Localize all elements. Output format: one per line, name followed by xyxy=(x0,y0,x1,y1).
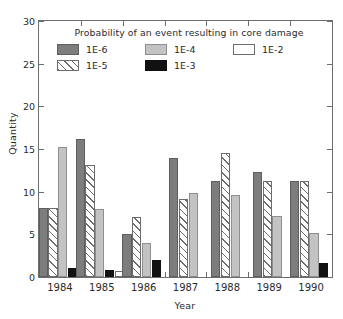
bar-1E4-1986 xyxy=(142,243,151,277)
x-tick-label: 1984 xyxy=(47,282,72,293)
y-tick-mark xyxy=(327,106,332,107)
y-tick-label: 20 xyxy=(23,101,35,112)
legend-label-1e4: 1E-4 xyxy=(174,44,196,55)
y-tick-label: 15 xyxy=(23,144,35,155)
legend-label-1e3: 1E-3 xyxy=(174,60,196,71)
legend-swatch-1e3 xyxy=(145,60,167,71)
bar-1E4-1989 xyxy=(272,216,281,277)
bar-1E6-1984 xyxy=(39,208,48,277)
y-tick-label: 10 xyxy=(23,186,35,197)
x-tick-mark xyxy=(165,272,166,277)
bar-1E5-1985 xyxy=(85,165,94,277)
bar-1E3-1986 xyxy=(152,260,161,277)
legend-swatch-1e2 xyxy=(233,44,255,55)
bar-1E4-1990 xyxy=(309,233,318,277)
legend-item-1e5: 1E-5 xyxy=(57,60,145,71)
legend-label-1e2: 1E-2 xyxy=(262,44,284,55)
x-tick-label: 1988 xyxy=(215,282,240,293)
bar-1E6-1988 xyxy=(211,181,220,277)
bar-1E5-1988 xyxy=(221,153,230,277)
bar-1E6-1989 xyxy=(253,172,262,277)
legend-swatch-1e4 xyxy=(145,44,167,55)
y-tick-mark xyxy=(39,21,44,22)
y-tick-label: 0 xyxy=(29,272,35,283)
legend-row-top: 1E-6 1E-4 1E-2 xyxy=(57,44,321,55)
x-tick-mark xyxy=(206,21,207,26)
bar-1E4-1988 xyxy=(231,195,240,277)
plot-area: 051015202530 198419851986198719881989199… xyxy=(38,20,333,278)
x-tick-mark xyxy=(248,21,249,26)
bar-1E6-1990 xyxy=(290,181,299,277)
legend-item-1e4: 1E-4 xyxy=(145,44,233,55)
y-tick-label: 25 xyxy=(23,58,35,69)
y-tick-mark xyxy=(39,192,44,193)
legend-label-1e5: 1E-5 xyxy=(86,60,108,71)
legend-item-1e2: 1E-2 xyxy=(233,44,321,55)
y-tick-mark xyxy=(327,64,332,65)
x-tick-label: 1987 xyxy=(173,282,198,293)
bar-chart-figure: Quantity Year 051015202530 1984198519861… xyxy=(0,0,343,319)
y-tick-label: 30 xyxy=(23,16,35,27)
bar-1E4-1985 xyxy=(95,209,104,277)
bar-1E6-1985 xyxy=(76,139,85,277)
y-axis-title: Quantity xyxy=(7,104,18,164)
x-tick-mark xyxy=(248,272,249,277)
bar-1E3-1990 xyxy=(319,263,328,278)
y-tick-mark xyxy=(39,64,44,65)
bar-1E4-1987 xyxy=(189,193,198,277)
x-tick-label: 1985 xyxy=(89,282,114,293)
bar-1E3-1985 xyxy=(105,270,114,277)
legend-item-1e6: 1E-6 xyxy=(57,44,145,55)
legend-label-1e6: 1E-6 xyxy=(86,44,108,55)
x-tick-label: 1986 xyxy=(131,282,156,293)
legend-row-bottom: 1E-5 1E-3 xyxy=(57,60,321,71)
y-tick-mark xyxy=(327,149,332,150)
x-tick-mark xyxy=(123,21,124,26)
y-tick-mark xyxy=(327,192,332,193)
bar-1E5-1987 xyxy=(179,199,188,277)
bar-1E5-1990 xyxy=(300,181,309,277)
y-tick-mark xyxy=(39,277,44,278)
y-tick-label: 5 xyxy=(29,229,35,240)
legend: Probability of an event resulting in cor… xyxy=(57,27,321,76)
x-tick-label: 1989 xyxy=(256,282,281,293)
x-axis-title: Year xyxy=(36,300,334,311)
bar-1E6-1986 xyxy=(122,234,131,277)
x-tick-label: 1990 xyxy=(298,282,323,293)
legend-title: Probability of an event resulting in cor… xyxy=(57,27,321,38)
bar-1E6-1987 xyxy=(169,158,178,277)
legend-item-1e3: 1E-3 xyxy=(145,60,233,71)
x-tick-mark xyxy=(165,21,166,26)
bar-1E5-1986 xyxy=(132,217,141,277)
y-tick-mark xyxy=(327,234,332,235)
x-tick-mark xyxy=(206,272,207,277)
y-tick-mark xyxy=(39,106,44,107)
y-tick-mark xyxy=(327,277,332,278)
bar-1E5-1989 xyxy=(263,181,272,277)
legend-swatch-1e5 xyxy=(57,60,79,71)
bar-1E4-1984 xyxy=(58,147,67,277)
y-tick-mark xyxy=(39,149,44,150)
legend-swatch-1e6 xyxy=(57,44,79,55)
x-tick-mark xyxy=(81,21,82,26)
x-tick-mark xyxy=(290,21,291,26)
bar-1E5-1984 xyxy=(48,208,57,277)
y-tick-mark xyxy=(327,21,332,22)
